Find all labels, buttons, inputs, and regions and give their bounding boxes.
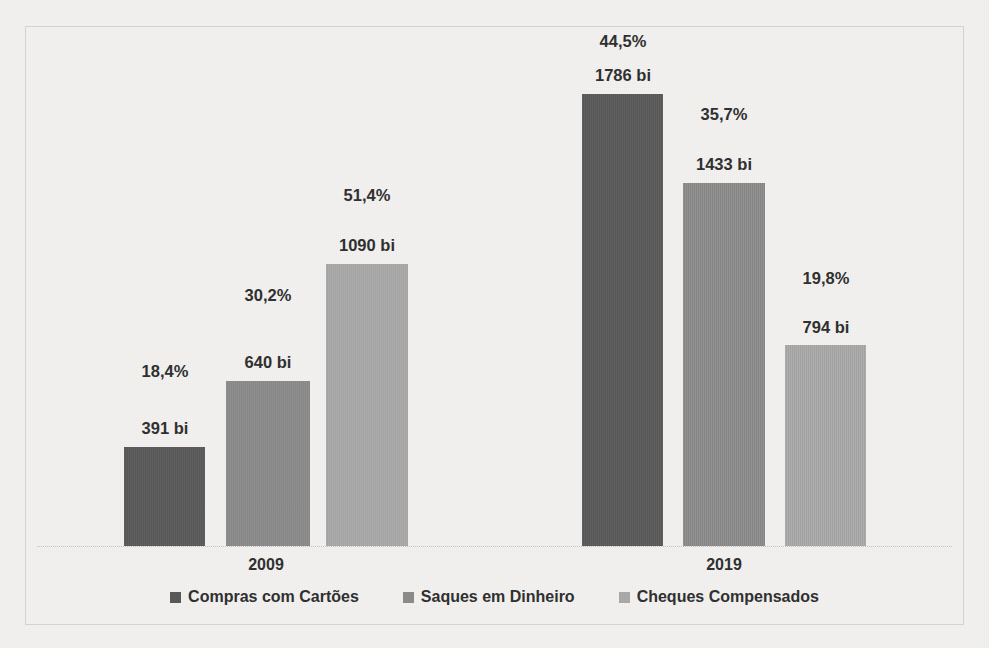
chart-legend: Compras com Cartões Saques em Dinheiro C… bbox=[0, 588, 989, 606]
bar-2019-compras-com-cartoes[interactable] bbox=[582, 94, 663, 546]
legend-item-compras-com-cartoes[interactable]: Compras com Cartões bbox=[170, 588, 359, 606]
bar-percent-label: 51,4% bbox=[306, 186, 428, 205]
plot-area: 18,4% 391 bi 30,2% 640 bi 51,4% 1090 bi … bbox=[0, 0, 989, 648]
bar-texture bbox=[683, 183, 765, 546]
bar-value-label: 391 bi bbox=[104, 419, 226, 438]
bar-texture bbox=[785, 345, 866, 546]
bar-2009-compras-com-cartoes[interactable] bbox=[124, 447, 205, 546]
legend-item-label: Compras com Cartões bbox=[188, 588, 359, 606]
bar-texture bbox=[124, 447, 205, 546]
bar-value-label: 1786 bi bbox=[562, 66, 684, 85]
bar-2019-saques-em-dinheiro[interactable] bbox=[683, 183, 765, 546]
category-label-2009: 2009 bbox=[205, 556, 327, 574]
legend-swatch-icon bbox=[170, 592, 181, 603]
bar-percent-label: 30,2% bbox=[207, 286, 329, 305]
legend-item-cheques-compensados[interactable]: Cheques Compensados bbox=[619, 588, 819, 606]
bar-value-label: 640 bi bbox=[207, 353, 329, 372]
bar-2009-saques-em-dinheiro[interactable] bbox=[226, 381, 310, 546]
bar-chart-figure: 18,4% 391 bi 30,2% 640 bi 51,4% 1090 bi … bbox=[0, 0, 989, 648]
bar-percent-label: 35,7% bbox=[663, 105, 785, 124]
bar-percent-label: 19,8% bbox=[765, 269, 887, 288]
bar-2019-cheques-compensados[interactable] bbox=[785, 345, 866, 546]
bar-value-label: 794 bi bbox=[765, 318, 887, 337]
bar-percent-label: 44,5% bbox=[562, 32, 684, 51]
bar-2009-cheques-compensados[interactable] bbox=[326, 264, 408, 546]
legend-item-label: Cheques Compensados bbox=[637, 588, 819, 606]
bar-texture bbox=[226, 381, 310, 546]
legend-item-saques-em-dinheiro[interactable]: Saques em Dinheiro bbox=[403, 588, 575, 606]
bar-value-label: 1433 bi bbox=[663, 155, 785, 174]
legend-item-label: Saques em Dinheiro bbox=[421, 588, 575, 606]
legend-swatch-icon bbox=[403, 592, 414, 603]
bar-texture bbox=[326, 264, 408, 546]
bar-texture bbox=[582, 94, 663, 546]
legend-swatch-icon bbox=[619, 592, 630, 603]
category-label-2019: 2019 bbox=[663, 556, 785, 574]
bar-value-label: 1090 bi bbox=[306, 236, 428, 255]
baseline-axis bbox=[37, 546, 952, 547]
